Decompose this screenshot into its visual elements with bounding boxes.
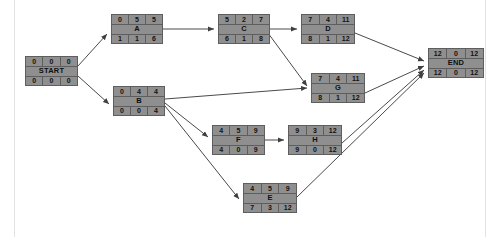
node-d-slack: 1 xyxy=(319,35,337,44)
node-b-label: B xyxy=(114,97,164,106)
node-e-duration: 5 xyxy=(261,184,279,193)
node-g-label: G xyxy=(312,84,364,93)
node-end-late_finish: 12 xyxy=(465,69,483,78)
node-a-slack: 1 xyxy=(128,35,145,44)
node-f-bottom-row: 409 xyxy=(213,146,264,155)
node-h[interactable]: 9312H9012 xyxy=(288,125,342,155)
node-g-duration: 4 xyxy=(329,74,347,83)
node-a-early_start: 0 xyxy=(112,15,128,24)
node-f-early_finish: 9 xyxy=(247,126,264,135)
node-end-label: END xyxy=(429,59,483,68)
node-b-bottom-row: 004 xyxy=(114,107,164,116)
node-d-bottom-row: 8112 xyxy=(302,35,354,44)
node-end-duration: 0 xyxy=(446,49,464,58)
node-c-duration: 2 xyxy=(235,15,252,24)
node-end-slack: 0 xyxy=(446,69,464,78)
node-b[interactable]: 044B004 xyxy=(113,86,165,116)
node-start-slack: 0 xyxy=(42,77,59,86)
node-d-early_finish: 11 xyxy=(336,15,354,24)
node-g-top-row: 7411 xyxy=(312,74,364,83)
node-d[interactable]: 7411D8112 xyxy=(301,14,355,44)
node-end[interactable]: 12012END12012 xyxy=(428,48,484,78)
node-h-late_finish: 12 xyxy=(323,146,341,155)
node-start-duration: 0 xyxy=(42,57,59,66)
node-f-late_start: 4 xyxy=(213,146,229,155)
node-h-slack: 0 xyxy=(306,146,324,155)
node-h-label-row: H xyxy=(289,135,341,146)
node-a-late_start: 1 xyxy=(112,35,128,44)
node-end-top-row: 12012 xyxy=(429,49,483,58)
node-c-label: C xyxy=(219,25,269,34)
node-c-label-row: C xyxy=(219,24,269,35)
node-e[interactable]: 459E7312 xyxy=(243,183,297,213)
node-g-late_start: 8 xyxy=(312,94,329,103)
node-c-early_start: 5 xyxy=(219,15,235,24)
edge-start-to-a xyxy=(78,34,107,66)
node-h-top-row: 9312 xyxy=(289,126,341,135)
node-a-early_finish: 5 xyxy=(145,15,162,24)
node-h-bottom-row: 9012 xyxy=(289,146,341,155)
node-e-bottom-row: 7312 xyxy=(244,204,296,213)
node-f-slack: 0 xyxy=(229,146,246,155)
node-a-top-row: 055 xyxy=(112,15,162,24)
node-a-label: A xyxy=(112,25,162,34)
node-e-label: E xyxy=(244,194,296,203)
node-b-early_start: 0 xyxy=(114,87,130,96)
node-start-label-row: START xyxy=(26,66,77,77)
node-c[interactable]: 527C618 xyxy=(218,14,270,44)
node-d-label: D xyxy=(302,25,354,34)
node-c-bottom-row: 618 xyxy=(219,35,269,44)
node-d-label-row: D xyxy=(302,24,354,35)
node-f-early_start: 4 xyxy=(213,126,229,135)
node-h-duration: 3 xyxy=(306,126,324,135)
node-f[interactable]: 459F409 xyxy=(212,125,265,155)
node-start-top-row: 000 xyxy=(26,57,77,66)
node-g-early_start: 7 xyxy=(312,74,329,83)
node-start-label: START xyxy=(26,67,77,76)
node-f-duration: 5 xyxy=(229,126,246,135)
node-e-early_start: 4 xyxy=(244,184,261,193)
node-c-slack: 1 xyxy=(235,35,252,44)
network-diagram-canvas: 000START000055A116044B004527C6187411D811… xyxy=(0,0,500,237)
node-g[interactable]: 7411G8112 xyxy=(311,73,365,103)
node-h-label: H xyxy=(289,136,341,145)
node-end-label-row: END xyxy=(429,58,483,69)
node-h-early_start: 9 xyxy=(289,126,306,135)
node-g-early_finish: 11 xyxy=(346,74,364,83)
node-g-slack: 1 xyxy=(329,94,347,103)
edge-b-to-f xyxy=(165,103,208,137)
node-f-label: F xyxy=(213,136,264,145)
node-start-early_start: 0 xyxy=(26,57,42,66)
node-f-top-row: 459 xyxy=(213,126,264,135)
node-d-top-row: 7411 xyxy=(302,15,354,24)
node-a-late_finish: 6 xyxy=(145,35,162,44)
node-end-late_start: 12 xyxy=(429,69,446,78)
node-b-late_start: 0 xyxy=(114,107,130,116)
node-b-late_finish: 4 xyxy=(147,107,164,116)
node-start-late_finish: 0 xyxy=(60,77,77,86)
node-end-early_start: 12 xyxy=(429,49,446,58)
node-end-bottom-row: 12012 xyxy=(429,69,483,78)
node-e-label-row: E xyxy=(244,193,296,204)
node-g-label-row: G xyxy=(312,83,364,94)
node-e-slack: 3 xyxy=(261,204,279,213)
node-a-duration: 5 xyxy=(128,15,145,24)
edge-g-to-end xyxy=(365,66,424,93)
node-e-early_finish: 9 xyxy=(278,184,296,193)
node-h-late_start: 9 xyxy=(289,146,306,155)
node-b-duration: 4 xyxy=(130,87,147,96)
node-start[interactable]: 000START000 xyxy=(25,56,78,86)
node-d-late_finish: 12 xyxy=(336,35,354,44)
node-b-label-row: B xyxy=(114,96,164,107)
node-h-early_finish: 12 xyxy=(323,126,341,135)
node-c-top-row: 527 xyxy=(219,15,269,24)
node-d-duration: 4 xyxy=(319,15,337,24)
node-b-top-row: 044 xyxy=(114,87,164,96)
node-d-late_start: 8 xyxy=(302,35,319,44)
node-a[interactable]: 055A116 xyxy=(111,14,163,44)
node-d-early_start: 7 xyxy=(302,15,319,24)
node-c-late_start: 6 xyxy=(219,35,235,44)
node-e-late_finish: 12 xyxy=(278,204,296,213)
edge-start-to-b xyxy=(78,76,109,104)
edge-d-to-end xyxy=(355,33,424,61)
